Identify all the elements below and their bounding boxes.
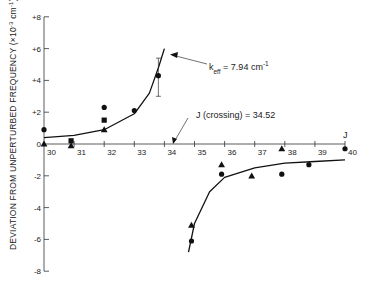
circle-marker — [156, 73, 161, 78]
keff-annotation: keff = 7.94 cm-1 — [170, 52, 269, 75]
circle-marker — [306, 162, 311, 167]
circle-marker — [279, 172, 284, 177]
circle-marker — [41, 127, 46, 132]
fit-curve — [189, 160, 346, 252]
x-tick-label: 34 — [167, 148, 176, 157]
chart-figure: +8+6+4+20-2-4-6-83031323334353637383940 … — [0, 0, 371, 284]
square-marker — [102, 118, 107, 123]
x-tick-label: 33 — [137, 148, 146, 157]
x-tick-label: 30 — [47, 148, 56, 157]
x-tick-label: 32 — [107, 148, 116, 157]
y-tick-label: +4 — [32, 76, 42, 85]
svg-text:J (crossing) = 34.52: J (crossing) = 34.52 — [196, 110, 275, 120]
y-tick-label: -4 — [34, 204, 42, 213]
triangle-marker — [218, 161, 225, 167]
x-tick-label: 36 — [228, 148, 237, 157]
triangle-marker — [278, 145, 285, 151]
svg-text:keff = 7.94 cm-1: keff = 7.94 cm-1 — [209, 60, 269, 75]
y-tick-label: -6 — [34, 235, 42, 244]
circle-marker — [219, 172, 224, 177]
axes — [44, 17, 345, 271]
y-tick-label: +2 — [32, 108, 42, 117]
y-tick-label: -8 — [34, 267, 42, 276]
triangle-marker — [101, 126, 108, 132]
y-tick-label: +8 — [32, 13, 42, 22]
x-axis-label: J — [343, 130, 348, 140]
x-tick-label: 31 — [77, 148, 86, 157]
y-tick-label: +6 — [32, 45, 42, 54]
x-tick-label: 40 — [348, 148, 357, 157]
circle-marker — [189, 238, 194, 243]
fit-curve — [44, 49, 164, 138]
y-axis-label: DEVIATION FROM UNPERTURBED FREQUENCY (×1… — [8, 0, 18, 250]
fit-curves — [44, 49, 345, 253]
y-tick-label: 0 — [37, 140, 42, 149]
data-points — [41, 73, 348, 244]
y-tick-label: -2 — [34, 172, 42, 181]
circle-marker — [132, 108, 137, 113]
triangle-marker — [248, 172, 255, 178]
x-tick-label: 38 — [288, 148, 297, 157]
crossing-annotation: J (crossing) = 34.52 — [172, 110, 275, 144]
x-tick-label: 35 — [198, 148, 207, 157]
x-tick-label: 37 — [258, 148, 267, 157]
circle-marker — [342, 146, 347, 151]
circle-marker — [102, 105, 107, 110]
x-tick-label: 39 — [318, 148, 327, 157]
